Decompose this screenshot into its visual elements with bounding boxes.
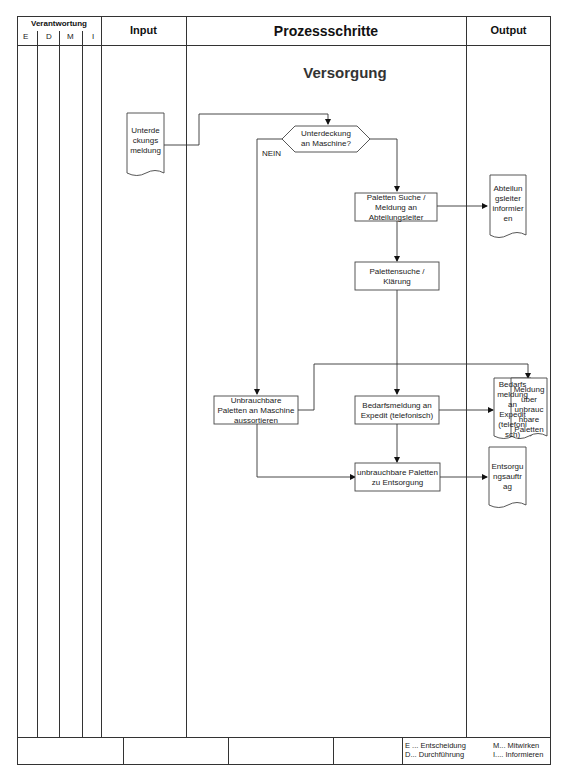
text-line: unbrauc	[511, 405, 547, 415]
legend-m: M... Mitwirken	[493, 741, 539, 750]
responsibility-columns: E D M I	[17, 32, 101, 44]
decision-unterdeckung: Unterdeckung an Maschine?	[290, 129, 362, 149]
text-line: aussortieren	[214, 416, 298, 426]
text-line: Paletten an Maschine	[214, 406, 298, 416]
text-line: Expedit (telefonisch)	[355, 411, 439, 421]
text-line: Abteilungsleiter	[355, 213, 437, 223]
output-abteilungsleiter-informieren: Abteilun gsleiter informier en	[490, 184, 526, 224]
col-e-label: E	[23, 32, 28, 41]
step-bedarfsmeldung: Bedarfsmeldung an Expedit (telefonisch)	[355, 401, 439, 421]
text-line: meldung	[127, 146, 164, 156]
no-branch-label: NEIN	[262, 149, 286, 159]
text-line: hbare	[511, 415, 547, 425]
text-line: Unterde	[127, 126, 164, 136]
step-paletten-suche: Paletten Suche / Meldung an Abteilungsle…	[355, 193, 437, 223]
table-grid	[18, 17, 551, 765]
legend-d: D... Durchführung	[405, 750, 464, 759]
text-line: zu Entsorgung	[355, 478, 440, 488]
text-line: ngsauftr	[489, 472, 526, 482]
step-entsorgung: unbrauchbare Paletten zu Entsorgung	[355, 468, 440, 488]
legend-i: I.... Informieren	[493, 750, 543, 759]
text-line: ckungs	[127, 136, 164, 146]
text-line: Klärung	[355, 277, 439, 287]
text-line: über	[511, 395, 547, 405]
text-line: gsleiter	[490, 194, 526, 204]
process-column-title: Prozessschritte	[186, 23, 466, 39]
input-column-title: Input	[101, 24, 186, 36]
text-line: Entsorgu	[489, 462, 526, 472]
output-meldung-unbrauchbar: Meldung über unbrauc hbare Paletten	[511, 385, 547, 435]
section-title: Versorgung	[285, 64, 405, 81]
text-line: Bedarfsmeldung an	[355, 401, 439, 411]
col-d-label: D	[46, 32, 52, 41]
legend: E ... Entscheidung D... Durchführung M..…	[405, 741, 550, 763]
text-line: Abteilun	[490, 184, 526, 194]
text-line: an Maschine?	[290, 139, 362, 149]
legend-e: E ... Entscheidung	[405, 741, 466, 750]
swimlane-flowchart	[0, 0, 569, 784]
col-m-label: M	[67, 32, 74, 41]
responsibility-title: Verantwortung	[17, 19, 101, 28]
text-line: Palettensuche /	[355, 267, 439, 277]
col-i-label: I	[92, 32, 94, 41]
text-line: Meldung an	[355, 203, 437, 213]
text-line: Unterdeckung	[290, 129, 362, 139]
text-line: Meldung	[511, 385, 547, 395]
text-line: unbrauchbare Paletten	[355, 468, 440, 478]
input-document: Unterde ckungs meldung	[127, 126, 164, 156]
output-column-title: Output	[466, 24, 551, 36]
step-palettensuche-klaerung: Palettensuche / Klärung	[355, 267, 439, 287]
step-unbrauchbare-aussortieren: Unbrauchbare Paletten an Maschine aussor…	[214, 396, 298, 426]
text-line: informier	[490, 204, 526, 214]
text-line: Paletten Suche /	[355, 193, 437, 203]
output-entsorgungsauftrag: Entsorgu ngsauftr ag	[489, 462, 526, 492]
text-line: Paletten	[511, 425, 547, 435]
text-line: ag	[489, 482, 526, 492]
text-line: en	[490, 214, 526, 224]
text-line: Unbrauchbare	[214, 396, 298, 406]
